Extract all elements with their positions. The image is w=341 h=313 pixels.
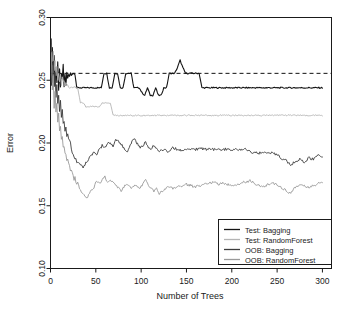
- series-line: [51, 48, 322, 96]
- x-tick-label: 300: [315, 276, 329, 286]
- legend-label: Test: Bagging: [245, 226, 290, 235]
- x-tick-label: 250: [270, 276, 284, 286]
- y-axis: 0.100.150.200.250.30: [37, 9, 51, 277]
- x-tick-label: 200: [225, 276, 239, 286]
- error-vs-trees-chart: 0.100.150.200.250.30 050100150200250300 …: [0, 0, 341, 313]
- y-tick-label: 0.15: [37, 197, 47, 214]
- chart-legend: Test: BaggingTest: RandomForestOOB: Bagg…: [219, 220, 332, 265]
- x-tick-label: 0: [48, 276, 53, 286]
- y-tick-label: 0.25: [37, 72, 47, 89]
- y-axis-title: Error: [5, 133, 15, 153]
- x-tick-label: 50: [91, 276, 101, 286]
- series-line: [51, 39, 322, 168]
- series-line: [51, 53, 322, 198]
- y-tick-label: 0.10: [37, 260, 47, 277]
- legend-label: OOB: Bagging: [245, 246, 293, 255]
- y-tick-label: 0.20: [37, 134, 47, 151]
- legend-label: OOB: RandomForest: [245, 256, 316, 265]
- x-axis: 050100150200250300: [48, 269, 330, 286]
- series-line: [51, 51, 322, 116]
- data-series-group: [51, 39, 322, 198]
- x-tick-label: 100: [134, 276, 148, 286]
- y-tick-label: 0.30: [37, 9, 47, 26]
- x-tick-label: 150: [179, 276, 193, 286]
- chart-container: 0.100.150.200.250.30 050100150200250300 …: [0, 0, 341, 313]
- legend-label: Test: RandomForest: [245, 236, 313, 245]
- x-axis-title: Number of Trees: [156, 291, 224, 301]
